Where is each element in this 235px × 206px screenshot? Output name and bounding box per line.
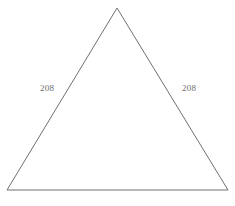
right-side-length-label: 208 [182, 83, 196, 93]
triangle-outline [7, 8, 228, 190]
triangle-figure [0, 0, 235, 206]
left-side-length-label: 208 [40, 83, 54, 93]
